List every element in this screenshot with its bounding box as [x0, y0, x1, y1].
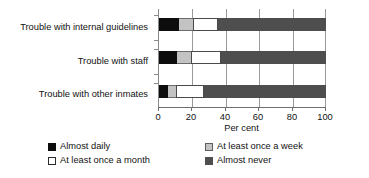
legend-swatch-once-a-week-icon	[205, 143, 213, 151]
legend-label-almost-daily: Almost daily	[60, 141, 110, 152]
x-tick-label-20: 20	[186, 112, 196, 123]
plot-area	[158, 9, 326, 107]
category-label-staff: Trouble with staff	[0, 56, 148, 67]
legend-label-almost-never: Almost never	[217, 155, 271, 166]
legend-item-once-a-week: At least once a week	[205, 141, 303, 152]
x-tick-mark-20	[191, 108, 192, 111]
bar-segment-once-a-week	[179, 18, 193, 31]
legend-item-once-a-month: At least once a month	[48, 155, 150, 166]
x-tick-label-40: 40	[220, 112, 230, 123]
x-tick-mark-60	[258, 108, 259, 111]
legend-item-almost-daily: Almost daily	[48, 141, 110, 152]
x-tick-label-80: 80	[287, 112, 297, 123]
x-tick-mark-100	[325, 108, 326, 111]
bar-staff	[159, 51, 326, 64]
x-tick-label-0: 0	[155, 112, 160, 123]
bar-segment-once-a-month	[193, 18, 218, 31]
category-label-internal-guidelines: Trouble with internal guidelines	[0, 22, 148, 33]
bar-segment-almost-daily	[159, 18, 179, 31]
bar-segment-once-a-month	[176, 85, 204, 98]
bar-segment-almost-daily	[159, 85, 168, 98]
bar-segment-once-a-week	[177, 51, 191, 64]
legend-swatch-almost-never-icon	[205, 157, 213, 165]
x-tick-label-60: 60	[253, 112, 263, 123]
legend-swatch-once-a-month-icon	[48, 157, 56, 165]
x-axis-line	[158, 107, 326, 108]
bar-segment-almost-never	[204, 85, 326, 98]
legend-label-once-a-week: At least once a week	[217, 141, 303, 152]
bar-segment-once-a-month	[191, 51, 221, 64]
legend-swatch-almost-daily-icon	[48, 143, 56, 151]
legend-label-once-a-month: At least once a month	[60, 155, 150, 166]
x-tick-label-100: 100	[317, 112, 333, 123]
x-tick-mark-0	[158, 108, 159, 111]
bar-segment-almost-never	[221, 51, 326, 64]
x-axis-title: Per cent	[158, 123, 325, 134]
category-label-other-inmates: Trouble with other inmates	[0, 89, 148, 100]
bar-segment-almost-daily	[159, 51, 177, 64]
category-axis-labels: Trouble with internal guidelines Trouble…	[0, 12, 152, 108]
bar-internal-guidelines	[159, 18, 326, 31]
stacked-bar-chart: Trouble with internal guidelines Trouble…	[0, 0, 369, 178]
bar-segment-almost-never	[218, 18, 326, 31]
chart-legend: Almost daily At least once a week At lea…	[48, 141, 358, 171]
legend-item-almost-never: Almost never	[205, 155, 271, 166]
bar-other-inmates	[159, 85, 326, 98]
x-tick-mark-80	[292, 108, 293, 111]
x-tick-mark-40	[225, 108, 226, 111]
bar-segment-once-a-week	[168, 85, 176, 98]
